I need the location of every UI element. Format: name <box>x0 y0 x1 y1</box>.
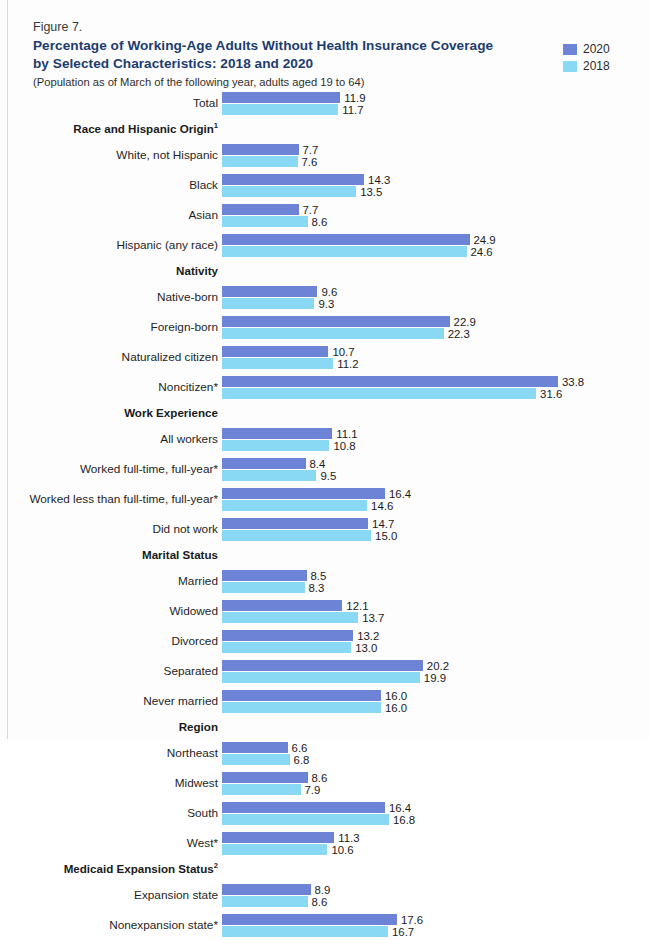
bar-value-2018: 11.2 <box>337 358 358 370</box>
bar-2020: 9.6 <box>222 286 317 297</box>
chart-row: South16.416.8 <box>0 798 650 828</box>
bar-value-2020: 33.8 <box>562 376 584 388</box>
bar-value-2018: 6.8 <box>294 754 310 766</box>
chart-row: Hispanic (any race)24.924.6 <box>0 230 650 260</box>
row-bars: 7.77.6 <box>222 144 299 167</box>
bar-2020: 33.8 <box>222 376 558 387</box>
bar-value-2018: 8.6 <box>312 896 328 908</box>
group-header-label: Region <box>179 720 218 733</box>
bar-value-2020: 8.9 <box>315 884 331 896</box>
bar-2020: 8.4 <box>222 458 306 469</box>
row-bars: 14.715.0 <box>222 518 371 541</box>
bar-value-2020: 22.9 <box>454 316 476 328</box>
group-header: Marital Status <box>0 544 650 566</box>
row-bars: 7.78.6 <box>222 204 308 227</box>
group-header: Race and Hispanic Origin1 <box>0 118 650 140</box>
bar-2020: 17.6 <box>222 914 397 925</box>
bar-2018: 16.0 <box>222 702 381 713</box>
chart-row: Widowed12.113.7 <box>0 596 650 626</box>
row-bars: 13.213.0 <box>222 630 353 653</box>
bar-2018: 16.7 <box>222 926 388 937</box>
figure-header: Figure 7. Percentage of Working-Age Adul… <box>33 20 553 90</box>
bar-2018: 6.8 <box>222 754 290 765</box>
bar-value-2018: 10.8 <box>333 440 355 452</box>
bar-value-2020: 8.4 <box>310 458 326 470</box>
bar-2018: 9.3 <box>222 298 314 309</box>
bar-2018: 13.0 <box>222 642 351 653</box>
bar-value-2020: 9.6 <box>321 286 337 298</box>
legend-swatch-2018 <box>563 61 577 72</box>
row-label: Foreign-born <box>150 320 218 334</box>
row-bars: 20.219.9 <box>222 660 423 683</box>
chart-row: Black14.313.5 <box>0 170 650 200</box>
bar-value-2020: 24.9 <box>474 234 496 246</box>
bar-2020: 14.7 <box>222 518 368 529</box>
bar-2018: 19.9 <box>222 672 420 683</box>
bar-2018: 10.6 <box>222 844 327 855</box>
chart-row: Asian7.78.6 <box>0 200 650 230</box>
chart-row: White, not Hispanic7.77.6 <box>0 140 650 170</box>
group-header-label: Marital Status <box>142 548 218 561</box>
bar-2020: 10.7 <box>222 346 328 357</box>
chart-row: Divorced13.213.0 <box>0 626 650 656</box>
row-label: Worked full-time, full-year* <box>80 462 218 476</box>
row-label: Did not work <box>152 522 218 536</box>
page-title-line1: Percentage of Working-Age Adults Without… <box>33 37 553 55</box>
bar-value-2020: 20.2 <box>427 660 449 672</box>
bar-2018: 24.6 <box>222 246 467 257</box>
row-label: White, not Hispanic <box>116 148 218 162</box>
bar-2018: 31.6 <box>222 388 536 399</box>
chart-row: Northeast6.66.8 <box>0 738 650 768</box>
bar-2020: 8.5 <box>222 570 307 581</box>
group-header: Nativity <box>0 260 650 282</box>
bar-2018: 7.6 <box>222 156 298 167</box>
bar-2018: 8.3 <box>222 582 305 593</box>
bar-value-2020: 12.1 <box>346 600 368 612</box>
bar-2020: 16.4 <box>222 488 385 499</box>
chart-row: Expansion state8.98.6 <box>0 880 650 910</box>
bar-value-2020: 16.4 <box>389 488 411 500</box>
row-label: Worked less than full-time, full-year* <box>29 492 218 506</box>
bar-value-2018: 8.3 <box>309 582 325 594</box>
bar-2018: 14.6 <box>222 500 367 511</box>
bar-value-2018: 7.9 <box>305 784 321 796</box>
bar-2018: 16.8 <box>222 814 389 825</box>
bar-2018: 11.7 <box>222 104 338 115</box>
chart-row: Never married16.016.0 <box>0 686 650 716</box>
bar-2018: 10.8 <box>222 440 329 451</box>
chart-row: Naturalized citizen10.711.2 <box>0 342 650 372</box>
row-bars: 8.67.9 <box>222 772 308 795</box>
chart-row: Noncitizen*33.831.6 <box>0 372 650 402</box>
bar-value-2020: 11.1 <box>336 428 357 440</box>
bar-value-2018: 14.6 <box>371 500 393 512</box>
bar-value-2020: 11.3 <box>338 832 359 844</box>
bar-2020: 11.9 <box>222 92 340 103</box>
bar-value-2018: 19.9 <box>424 672 446 684</box>
row-label: Expansion state <box>134 888 218 902</box>
bar-2018: 11.2 <box>222 358 333 369</box>
legend-item-2020: 2020 <box>563 42 610 57</box>
bar-value-2018: 11.7 <box>342 104 363 116</box>
bar-value-2020: 13.2 <box>357 630 379 642</box>
chart-row: Foreign-born22.922.3 <box>0 312 650 342</box>
bar-2020: 11.3 <box>222 832 334 843</box>
row-bars: 24.924.6 <box>222 234 470 257</box>
group-header-label: Medicaid Expansion Status2 <box>64 862 218 875</box>
bar-value-2018: 22.3 <box>448 328 470 340</box>
bar-2020: 16.4 <box>222 802 385 813</box>
row-label: Married <box>178 574 218 588</box>
bar-2020: 11.1 <box>222 428 332 439</box>
bar-value-2020: 7.7 <box>303 204 319 216</box>
row-label: All workers <box>160 432 218 446</box>
bar-2018: 9.5 <box>222 470 316 481</box>
bar-2020: 7.7 <box>222 204 299 215</box>
bar-value-2018: 13.7 <box>362 612 384 624</box>
chart-row: Married8.58.3 <box>0 566 650 596</box>
row-label: Separated <box>164 664 218 678</box>
bar-value-2018: 16.8 <box>393 814 415 826</box>
bar-2018: 8.6 <box>222 216 308 227</box>
row-label: Hispanic (any race) <box>116 238 218 252</box>
page-title: Percentage of Working-Age Adults Without… <box>33 37 553 72</box>
bar-value-2018: 7.6 <box>302 156 318 168</box>
row-bars: 11.911.7 <box>222 92 340 115</box>
